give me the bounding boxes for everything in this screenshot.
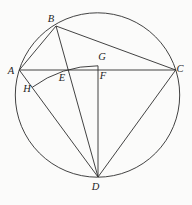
label-F: F xyxy=(99,70,107,81)
segment-AD xyxy=(19,70,98,177)
label-B: B xyxy=(48,13,55,24)
label-H: H xyxy=(22,83,32,94)
label-E: E xyxy=(58,72,66,83)
label-C: C xyxy=(176,63,184,74)
figure: ABCDEFGH xyxy=(0,0,192,205)
segment-CD xyxy=(98,70,176,177)
segment-AB xyxy=(19,26,56,70)
label-G: G xyxy=(98,51,106,62)
geometry-svg: ABCDEFGH xyxy=(0,0,192,205)
circle-outline xyxy=(15,13,179,177)
segment-BC xyxy=(56,26,176,70)
label-D: D xyxy=(91,181,100,192)
segment-BD xyxy=(56,26,98,177)
label-A: A xyxy=(7,65,15,76)
